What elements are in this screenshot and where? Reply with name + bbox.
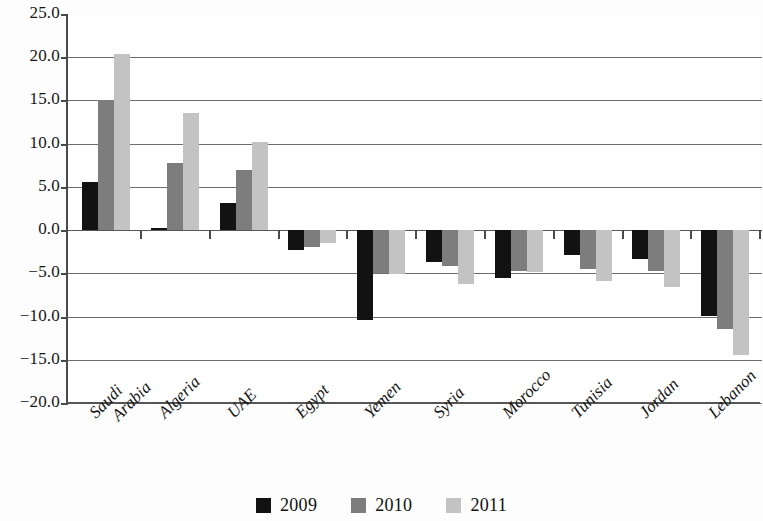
bar-group xyxy=(632,14,680,403)
bar-jordan-2009 xyxy=(632,230,648,259)
bar-morocco-2009 xyxy=(495,230,511,278)
bar-egypt-2009 xyxy=(288,230,304,250)
bar-algeria-2009 xyxy=(151,228,167,230)
plot-area xyxy=(66,14,760,403)
y-tick-mark xyxy=(61,187,68,189)
bar-group xyxy=(288,14,336,403)
x-tick-mark xyxy=(553,230,555,239)
y-axis-tick-label: 10.0 xyxy=(0,133,60,153)
bar-group xyxy=(357,14,405,403)
legend-label-2010: 2010 xyxy=(375,495,412,516)
bar-egypt-2010 xyxy=(304,230,320,246)
y-axis-tick-label: −5.0 xyxy=(0,262,60,282)
bar-group xyxy=(82,14,130,403)
y-tick-mark xyxy=(61,14,68,16)
legend-item-2011: 2011 xyxy=(446,495,507,516)
y-tick-mark xyxy=(61,360,68,362)
y-tick-mark xyxy=(61,57,68,59)
bar-lebanon-2009 xyxy=(701,230,717,316)
y-axis-tick-label: −15.0 xyxy=(0,349,60,369)
bar-tunisia-2009 xyxy=(564,230,580,255)
chart-legend: 200920102011 xyxy=(0,492,763,518)
x-tick-mark xyxy=(484,230,486,239)
bar-uae-2009 xyxy=(220,203,236,230)
x-axis-category-labels: SaudiArabiaAlgeriaUAEEgyptYemenSyriaMoro… xyxy=(0,403,763,483)
y-axis-tick-label: 25.0 xyxy=(0,3,60,23)
y-axis-tick-label: 0.0 xyxy=(0,219,60,239)
x-tick-mark xyxy=(140,230,142,239)
x-tick-mark xyxy=(690,230,692,239)
bar-group xyxy=(220,14,268,403)
x-tick-mark xyxy=(209,230,211,239)
y-tick-mark xyxy=(61,230,68,232)
bar-group xyxy=(495,14,543,403)
y-tick-mark xyxy=(61,100,68,102)
bar-yemen-2009 xyxy=(357,230,373,320)
legend-swatch-2011 xyxy=(446,498,461,513)
legend-swatch-2010 xyxy=(351,498,366,513)
bar-lebanon-2011 xyxy=(733,230,749,355)
bar-lebanon-2010 xyxy=(717,230,733,329)
bar-morocco-2010 xyxy=(511,230,527,271)
bar-syria-2009 xyxy=(426,230,442,262)
x-tick-mark xyxy=(759,230,761,239)
bar-group xyxy=(426,14,474,403)
bar-yemen-2011 xyxy=(389,230,405,274)
y-axis-tick-label: 15.0 xyxy=(0,89,60,109)
x-tick-mark xyxy=(278,230,280,239)
bar-group xyxy=(151,14,199,403)
y-axis-tick-label: 5.0 xyxy=(0,176,60,196)
bar-algeria-2011 xyxy=(183,113,199,230)
legend-swatch-2009 xyxy=(256,498,271,513)
bar-tunisia-2010 xyxy=(580,230,596,269)
bar-uae-2011 xyxy=(252,142,268,230)
legend-item-2009: 2009 xyxy=(256,495,317,516)
bar-algeria-2010 xyxy=(167,163,183,230)
bar-tunisia-2011 xyxy=(596,230,612,281)
x-tick-mark xyxy=(622,230,624,239)
legend-item-2010: 2010 xyxy=(351,495,412,516)
bar-saudi-arabia-2010 xyxy=(98,100,114,230)
bar-syria-2011 xyxy=(458,230,474,284)
bar-saudi-arabia-2009 xyxy=(82,182,98,230)
x-tick-mark xyxy=(346,230,348,239)
bar-yemen-2010 xyxy=(373,230,389,273)
bar-morocco-2011 xyxy=(527,230,543,272)
bar-egypt-2011 xyxy=(320,230,336,243)
legend-label-2011: 2011 xyxy=(470,495,507,516)
y-tick-mark xyxy=(61,144,68,146)
bar-syria-2010 xyxy=(442,230,458,265)
y-axis-tick-label: 20.0 xyxy=(0,46,60,66)
bar-group xyxy=(701,14,749,403)
bar-group xyxy=(564,14,612,403)
bar-jordan-2011 xyxy=(664,230,680,287)
bar-saudi-arabia-2011 xyxy=(114,54,130,230)
y-tick-mark xyxy=(61,273,68,275)
x-tick-mark xyxy=(415,230,417,239)
y-axis-tick-label: −10.0 xyxy=(0,306,60,326)
bar-jordan-2010 xyxy=(648,230,664,271)
y-tick-mark xyxy=(61,317,68,319)
bar-chart: 25.020.015.010.05.00.0−5.0−10.0−15.0−20.… xyxy=(0,0,763,521)
legend-label-2009: 2009 xyxy=(280,495,317,516)
bar-uae-2010 xyxy=(236,170,252,231)
